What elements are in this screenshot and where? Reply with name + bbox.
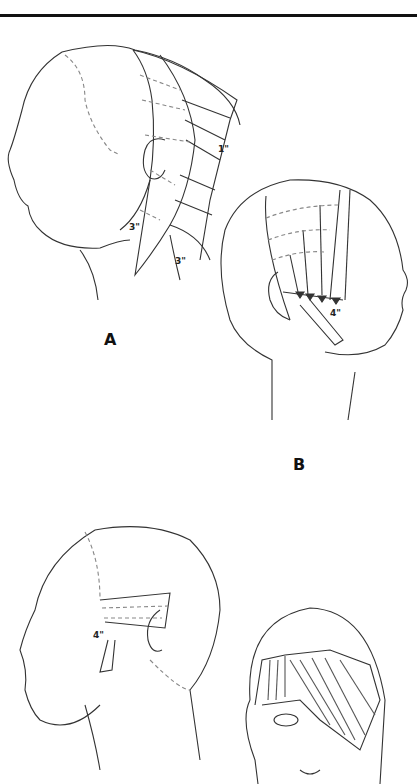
measurement-3in-b: 3": [175, 256, 186, 266]
measurement-4in-c: 4": [93, 630, 104, 640]
measurement-1in: 1": [218, 144, 229, 154]
figure-a-head: [8, 45, 240, 300]
haircut-illustration: [0, 0, 417, 784]
figure-b-head: [221, 180, 407, 420]
measurement-4in-b: 4": [330, 308, 341, 318]
figure-label-a: A: [104, 330, 116, 349]
measurement-3in-a: 3": [129, 222, 140, 232]
figure-c-head: [20, 527, 220, 770]
figure-d-head: [246, 608, 385, 784]
figure-label-b: B: [293, 455, 305, 474]
